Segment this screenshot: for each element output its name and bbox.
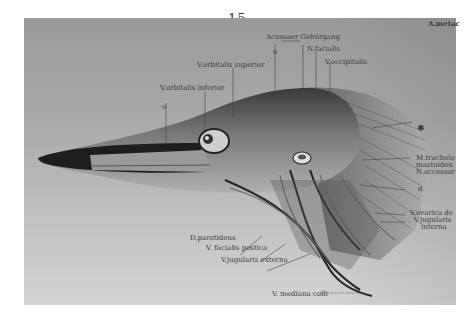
marker-star: ✱ [417,124,425,132]
label-acusseer-gehoergang: Acussaer Gehörgang [266,33,340,41]
label-d-parotideus: D.parotideus [190,234,236,242]
marker-d: d [418,185,422,193]
label-v-jugularis-externa: V.jugularis externa [221,256,288,264]
label-v-occipitalis: V.occipitalis [325,58,367,66]
label-n-facialis: N.facialis [307,45,340,53]
label-top-right: A.metac [428,20,460,28]
marker-o-top: o [273,48,277,56]
label-v-orbitalis-superior: V.orbitalis superior [197,61,265,69]
label-v-mediana-colli: V. mediana colli [272,290,328,298]
label-v-jugularis-interna-2: interna [421,223,447,231]
bird-head-illustration [0,0,475,320]
label-v-facialis-postica: V. facialis postica [206,244,267,252]
label-v-orbitalis-inferior: V.orbitalis inferior [160,84,224,92]
marker-o-left: ·o [160,103,166,111]
label-n-accessor: N.accessor [416,168,455,176]
